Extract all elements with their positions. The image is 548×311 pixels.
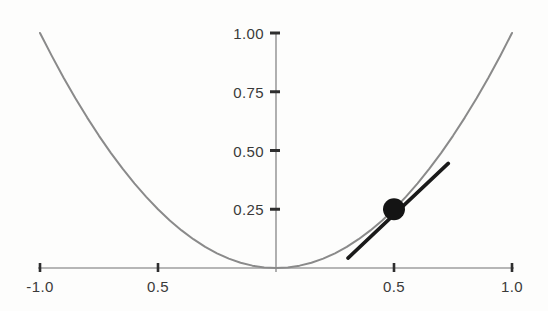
x-axis-tick-label-1: 0.5 xyxy=(147,278,169,295)
y-axis-tick-label-3: 1.00 xyxy=(233,25,264,42)
chart-figure: 0.250.500.751.00-1.00.50.51.0 xyxy=(0,0,548,311)
y-axis-tick-label-0: 0.25 xyxy=(233,201,264,218)
y-axis-tick-label-1: 0.50 xyxy=(233,142,264,159)
x-axis-tick-label-2: 0.5 xyxy=(383,278,405,295)
marker-tangent-point xyxy=(383,198,405,220)
x-axis-tick-label-3: 1.0 xyxy=(501,278,523,295)
y-axis-tick-label-2: 0.75 xyxy=(233,83,264,100)
plot-canvas xyxy=(0,0,548,311)
x-axis-tick-label-0: -1.0 xyxy=(26,278,53,295)
